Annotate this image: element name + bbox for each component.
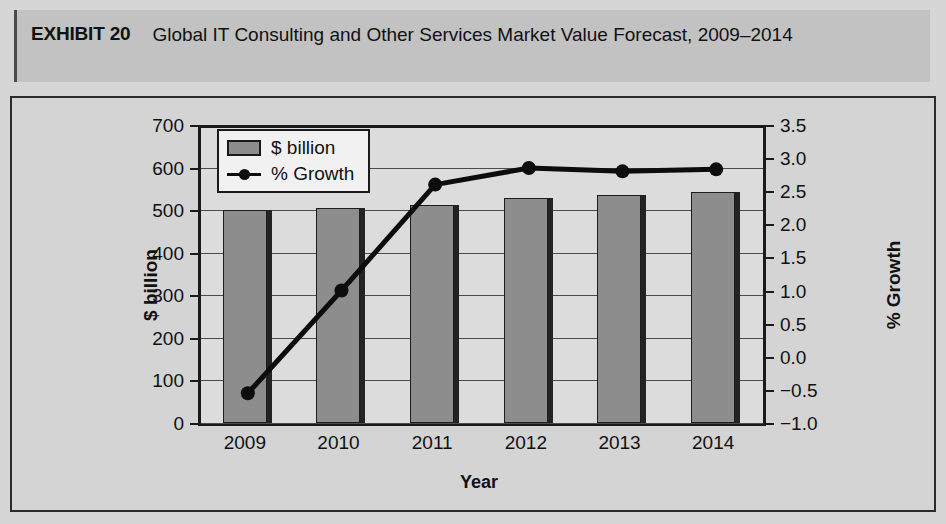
growth-marker-2010[interactable] <box>335 284 349 298</box>
y-label-right-1.5: 1.5 <box>780 248 806 267</box>
y-tick-right-0.5 <box>766 324 774 326</box>
y-label-left-600: 600 <box>152 158 184 177</box>
growth-line-path <box>248 168 716 393</box>
legend-bar-swatch-icon <box>227 140 261 156</box>
x-axis-tick-labels: 200920102011201220132014 <box>198 432 760 454</box>
y-tick-right-2.0 <box>766 224 774 226</box>
plot-area: 0100200300400500600700 −1.0−0.50.00.51.0… <box>198 125 766 426</box>
y-label-right-−0.5: −0.5 <box>780 380 818 399</box>
exhibit-title: Global IT Consulting and Other Services … <box>152 22 792 47</box>
y-tick-right-3.0 <box>766 158 774 160</box>
exhibit-number-label: EXHIBIT 20 <box>31 22 130 45</box>
x-axis-label-2011: 2011 <box>385 432 479 454</box>
x-axis-label-2009: 2009 <box>198 432 292 454</box>
gridline-0 <box>201 423 763 424</box>
legend-item-bar: $ billion <box>227 137 354 159</box>
chart-legend: $ billion % Growth <box>217 129 370 193</box>
y-tick-left-600 <box>190 168 198 170</box>
legend-line-marker-icon <box>227 166 261 182</box>
y-tick-left-200 <box>190 338 198 340</box>
y-tick-right-0.0 <box>766 357 774 359</box>
y-tick-right-2.5 <box>766 191 774 193</box>
y-label-left-200: 200 <box>152 328 184 347</box>
y-tick-right-−0.5 <box>766 390 774 392</box>
y-label-right-2.5: 2.5 <box>780 182 806 201</box>
y-label-right-3.0: 3.0 <box>780 149 806 168</box>
y-label-right-0.5: 0.5 <box>780 314 806 333</box>
y-label-left-300: 300 <box>152 286 184 305</box>
chart-frame: $ billion % Growth Year 2009201020112012… <box>10 96 936 512</box>
x-axis-label-2014: 2014 <box>666 432 760 454</box>
growth-marker-2011[interactable] <box>428 178 442 192</box>
y-label-right-2.0: 2.0 <box>780 215 806 234</box>
legend-label-line: % Growth <box>271 163 354 185</box>
y-label-right-−1.0: −1.0 <box>780 414 818 433</box>
growth-marker-2013[interactable] <box>616 164 630 178</box>
y-tick-left-400 <box>190 253 198 255</box>
exhibit-header: EXHIBIT 20 Global IT Consulting and Othe… <box>14 10 930 82</box>
y-tick-left-0 <box>190 423 198 425</box>
y-label-right-0.0: 0.0 <box>780 347 806 366</box>
y-tick-right-−1.0 <box>766 423 774 425</box>
y-tick-right-1.0 <box>766 291 774 293</box>
y-tick-left-700 <box>190 125 198 127</box>
x-axis-title: Year <box>198 472 760 493</box>
y-label-left-0: 0 <box>173 414 184 433</box>
growth-marker-2009[interactable] <box>241 386 255 400</box>
y-tick-left-300 <box>190 295 198 297</box>
y-tick-left-500 <box>190 210 198 212</box>
y-tick-right-3.5 <box>766 125 774 127</box>
y-label-right-1.0: 1.0 <box>780 281 806 300</box>
x-axis-label-2013: 2013 <box>573 432 667 454</box>
growth-marker-2014[interactable] <box>709 162 723 176</box>
y-label-left-500: 500 <box>152 201 184 220</box>
legend-item-line: % Growth <box>227 163 354 185</box>
y-axis-title-right: % Growth <box>883 241 905 330</box>
y-label-left-400: 400 <box>152 243 184 262</box>
y-label-left-100: 100 <box>152 371 184 390</box>
growth-marker-2012[interactable] <box>522 161 536 175</box>
y-label-right-3.5: 3.5 <box>780 116 806 135</box>
x-axis-label-2010: 2010 <box>292 432 386 454</box>
y-tick-right-1.5 <box>766 257 774 259</box>
x-axis-label-2012: 2012 <box>479 432 573 454</box>
y-label-left-700: 700 <box>152 116 184 135</box>
legend-label-bar: $ billion <box>271 137 335 159</box>
y-tick-left-100 <box>190 380 198 382</box>
